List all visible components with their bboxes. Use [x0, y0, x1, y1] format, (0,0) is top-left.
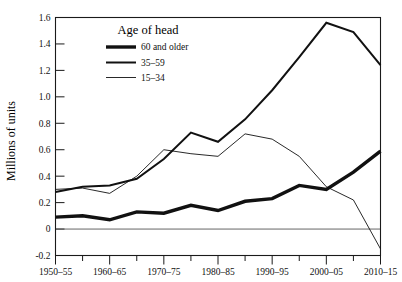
- y-axis-ticks: [56, 44, 65, 229]
- x-tick-label: 1960–65: [93, 267, 127, 277]
- y-tick-label: 0.2: [39, 198, 51, 208]
- y-tick-label: 0.4: [39, 172, 51, 182]
- x-tick-label: 1970–75: [147, 267, 181, 277]
- x-axis-tick-labels: 1950–551960–651970–751980–851990–952000–…: [39, 267, 398, 277]
- chart-legend: Age of head 60 and older35–5915–34: [106, 23, 189, 83]
- legend-title: Age of head: [117, 23, 179, 37]
- series-line-thin: [56, 134, 381, 249]
- y-tick-label: 1.6: [39, 13, 51, 23]
- y-tick-label: 0.6: [39, 145, 51, 155]
- x-tick-label: 1980–85: [201, 267, 235, 277]
- data-series-group: [56, 23, 381, 249]
- y-tick-label: 1.4: [39, 39, 51, 49]
- y-axis-title: Millions of units: [4, 101, 18, 181]
- x-tick-label: 2010–15: [364, 267, 398, 277]
- y-axis-tick-labels: -0.200.20.40.60.81.01.21.41.6: [35, 13, 50, 261]
- x-axis-ticks: [56, 256, 381, 265]
- y-tick-label: 0: [46, 224, 51, 234]
- y-tick-label: 1.0: [39, 92, 51, 102]
- line-chart: -0.200.20.40.60.81.01.21.41.6 1950–55196…: [0, 0, 402, 282]
- y-tick-label: 0.8: [39, 119, 51, 129]
- y-tick-label: -0.2: [35, 251, 50, 261]
- y-tick-label: 1.2: [39, 66, 51, 76]
- legend-items: 60 and older35–5915–34: [106, 42, 189, 83]
- x-tick-label: 1950–55: [39, 267, 73, 277]
- legend-label: 60 and older: [141, 42, 189, 52]
- series-line-medium: [56, 23, 381, 192]
- x-tick-label: 2000–05: [310, 267, 344, 277]
- legend-label: 35–59: [141, 58, 165, 68]
- chart-container: -0.200.20.40.60.81.01.21.41.6 1950–55196…: [0, 0, 402, 282]
- legend-label: 15–34: [141, 73, 165, 83]
- x-tick-label: 1990–95: [256, 267, 290, 277]
